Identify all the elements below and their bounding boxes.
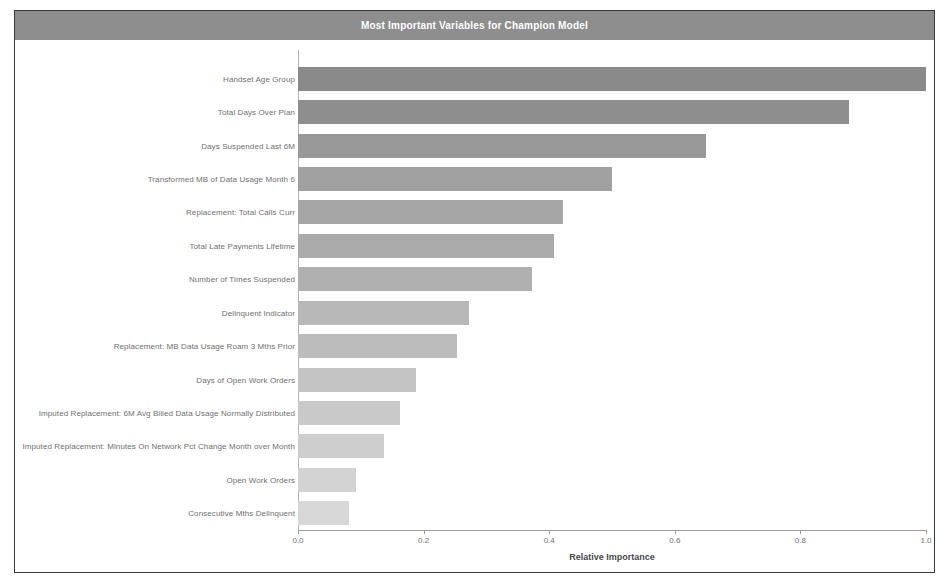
x-axis-title: Relative Importance: [298, 552, 926, 562]
bar-fill: [298, 334, 457, 358]
bar: [298, 334, 457, 358]
x-tick-label: 0.8: [795, 536, 806, 545]
x-tick-label: 0.4: [544, 536, 555, 545]
bar-row: Open Work Orders: [15, 463, 934, 496]
bar-category-label: Days of Open Work Orders: [196, 375, 295, 384]
bar: [298, 134, 706, 158]
bar-row: Replacement: MB Data Usage Roam 3 Mths P…: [15, 329, 934, 362]
plot-area: Handset Age GroupTotal Days Over PlanDay…: [15, 40, 934, 572]
bar-row: Consecutive Mths Delinquent: [15, 496, 934, 529]
bar-category-label: Replacement: MB Data Usage Roam 3 Mths P…: [114, 342, 295, 351]
chart-panel: Most Important Variables for Champion Mo…: [14, 10, 935, 573]
bar-row: Days of Open Work Orders: [15, 363, 934, 396]
bar-fill: [298, 167, 612, 191]
x-tick-label: 0.6: [669, 536, 680, 545]
x-tick-label: 1.0: [920, 536, 931, 545]
x-tick-mark: [675, 530, 676, 534]
bar-fill: [298, 234, 554, 258]
page-title: Most Important Variables for Champion Mo…: [361, 20, 588, 31]
bar-row: Number of Times Suspended: [15, 263, 934, 296]
bar-row: Imputed Replacement: 6M Avg Billed Data …: [15, 396, 934, 429]
bar-fill: [298, 200, 563, 224]
bar-category-label: Consecutive Mths Delinquent: [188, 509, 295, 518]
bar-fill: [298, 267, 532, 291]
bar: [298, 234, 554, 258]
bar-fill: [298, 468, 356, 492]
bar-category-label: Imputed Replacement: Minutes On Network …: [22, 442, 295, 451]
bar-category-label: Open Work Orders: [226, 475, 295, 484]
bar-fill: [298, 134, 706, 158]
bar-row: Imputed Replacement: Minutes On Network …: [15, 430, 934, 463]
bar-fill: [298, 100, 849, 124]
bar-category-label: Days Suspended Last 6M: [201, 141, 295, 150]
bar-rows: Handset Age GroupTotal Days Over PlanDay…: [15, 62, 934, 530]
x-tick-mark: [298, 530, 299, 534]
bar-category-label: Total Days Over Plan: [218, 108, 295, 117]
bar: [298, 100, 849, 124]
x-tick-label: 0.0: [292, 536, 303, 545]
bar-fill: [298, 501, 349, 525]
bar-row: Total Late Payments Lifetime: [15, 229, 934, 262]
bar: [298, 401, 400, 425]
bar-category-label: Total Late Payments Lifetime: [189, 241, 295, 250]
bar-row: Transformed MB of Data Usage Month 6: [15, 162, 934, 195]
bar-row: Replacement: Total Calls Curr: [15, 196, 934, 229]
bar-category-label: Replacement: Total Calls Curr: [186, 208, 295, 217]
x-tick-mark: [926, 530, 927, 534]
bar-category-label: Transformed MB of Data Usage Month 6: [148, 174, 295, 183]
bar-fill: [298, 67, 926, 91]
x-axis-line: [298, 530, 926, 531]
bar-category-label: Number of Times Suspended: [189, 275, 295, 284]
bar: [298, 368, 416, 392]
bar: [298, 468, 356, 492]
x-tick-mark: [424, 530, 425, 534]
bar: [298, 301, 469, 325]
bar-fill: [298, 301, 469, 325]
bar-fill: [298, 434, 384, 458]
bar-category-label: Delinquent Indicator: [222, 308, 295, 317]
bar: [298, 501, 349, 525]
x-tick-mark: [549, 530, 550, 534]
bar: [298, 167, 612, 191]
bar: [298, 200, 563, 224]
bar-fill: [298, 368, 416, 392]
x-tick-label: 0.2: [418, 536, 429, 545]
bar: [298, 434, 384, 458]
bar-row: Total Days Over Plan: [15, 95, 934, 128]
bar-category-label: Imputed Replacement: 6M Avg Billed Data …: [39, 408, 295, 417]
chart-title-bar: Most Important Variables for Champion Mo…: [15, 11, 934, 40]
bar: [298, 267, 532, 291]
bar-row: Delinquent Indicator: [15, 296, 934, 329]
bar-row: Handset Age Group: [15, 62, 934, 95]
x-tick-mark: [800, 530, 801, 534]
bar-category-label: Handset Age Group: [223, 74, 295, 83]
bar-row: Days Suspended Last 6M: [15, 129, 934, 162]
bar-fill: [298, 401, 400, 425]
bar: [298, 67, 926, 91]
